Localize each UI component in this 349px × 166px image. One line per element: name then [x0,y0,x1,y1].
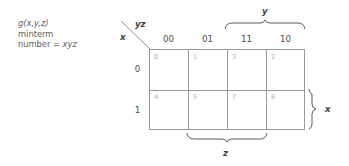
axis-label-x-corner: x [120,32,126,42]
kmap-figure: g(x,y,z) minterm number = xyz yz x 00 01… [0,0,349,166]
grid-hline-1 [150,90,304,91]
cell-value-r0c2: 3 [232,54,236,61]
brace-z [186,132,268,142]
cell-value-r1c2: 7 [232,94,236,101]
caption-line-3: number = xyz [18,39,77,50]
caption-minterm-expr: xyz [63,39,77,49]
row-header-0: 0 [131,64,144,74]
column-header-10: 10 [266,34,305,44]
figure-caption: g(x,y,z) minterm number = xyz [18,18,77,50]
column-header-01: 01 [188,34,227,44]
axis-label-yz: yz [135,19,146,29]
cell-value-r0c0: 0 [154,54,158,61]
cell-value-r0c3: 2 [271,54,275,61]
column-header-00: 00 [149,34,188,44]
caption-line-2: minterm [18,29,77,40]
cell-value-r0c1: 1 [193,54,197,61]
row-header-1: 1 [131,105,144,115]
brace-x [308,88,318,130]
kmap-grid: 0 1 3 2 4 5 7 6 [149,49,305,130]
brace-label-z: z [223,148,228,158]
column-header-11: 11 [227,34,266,44]
brace-label-y: y [262,6,268,16]
cell-value-r1c3: 6 [271,94,275,101]
cell-value-r1c0: 4 [154,94,158,101]
brace-y [224,20,306,30]
brace-label-x: x [325,104,331,114]
caption-line-1: g(x,y,z) [18,18,77,29]
cell-value-r1c1: 5 [193,94,197,101]
